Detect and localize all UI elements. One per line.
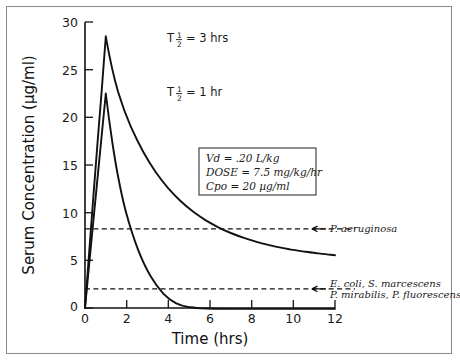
x-ticklabel-6: 6 bbox=[206, 311, 214, 326]
x-ticklabel-10: 10 bbox=[285, 311, 301, 326]
arrow-icon-paeruginosa bbox=[312, 226, 326, 232]
x-ticklabel-0: 0 bbox=[81, 311, 89, 326]
parameter-box: Vd = .20 L/kg DOSE = 7.5 mg/kg/hr Cpo = … bbox=[199, 148, 323, 195]
x-ticklabel-2: 2 bbox=[123, 311, 131, 326]
halflife-3hr-symbol: T bbox=[166, 31, 175, 45]
halflife-3hr-denominator: 2 bbox=[177, 40, 182, 49]
y-ticklabel-25: 25 bbox=[62, 63, 78, 78]
x-ticklabel-12: 12 bbox=[327, 311, 343, 326]
parameter-dose: DOSE = 7.5 mg/kg/hr bbox=[205, 166, 323, 178]
x-ticklabel-8: 8 bbox=[248, 311, 256, 326]
halflife-annotation-1hr: T 1 2 = 1 hr bbox=[166, 85, 223, 103]
x-ticklabel-4: 4 bbox=[164, 311, 172, 326]
reference-line-lower bbox=[85, 286, 355, 292]
x-axis-ticks bbox=[85, 300, 335, 308]
parameter-cpo: Cpo = 20 µg/ml bbox=[206, 180, 290, 192]
y-axis-title: Serum Concentration (µg/ml) bbox=[20, 55, 38, 274]
organism-label-enterics-line2: P. mirabilis, P. fluorescens bbox=[329, 289, 460, 300]
y-ticklabel-15: 15 bbox=[62, 158, 78, 173]
halflife-3hr-text: = 3 hrs bbox=[186, 31, 228, 45]
x-axis-tick-labels: 0 2 4 6 8 10 12 bbox=[81, 311, 343, 326]
y-axis-tick-labels: 30 25 20 15 10 5 0 bbox=[62, 15, 78, 314]
axis-lines bbox=[85, 22, 335, 308]
halflife-annotation-3hr: T 1 2 = 3 hrs bbox=[166, 31, 228, 49]
y-ticklabel-20: 20 bbox=[62, 110, 78, 125]
halflife-1hr-denominator: 2 bbox=[177, 94, 182, 103]
y-ticklabel-5: 5 bbox=[70, 253, 78, 268]
y-ticklabel-10: 10 bbox=[62, 206, 78, 221]
pharmacokinetics-figure: 30 25 20 15 10 5 0 0 2 4 6 8 10 12 bbox=[0, 0, 460, 362]
halflife-1hr-text: = 1 hr bbox=[186, 85, 223, 99]
x-axis-title: Time (hrs) bbox=[171, 330, 249, 348]
organism-label-paeruginosa: P. aeruginosa bbox=[329, 223, 397, 234]
serum-concentration-chart: 30 25 20 15 10 5 0 0 2 4 6 8 10 12 bbox=[0, 0, 460, 362]
y-ticklabel-0: 0 bbox=[70, 299, 78, 314]
arrow-icon-enterics bbox=[312, 286, 326, 292]
parameter-vd: Vd = .20 L/kg bbox=[206, 152, 280, 164]
curve-halflife-1hr bbox=[85, 94, 335, 309]
organism-label-enterics-line1: E. coli, S. marcescens bbox=[329, 278, 441, 289]
y-ticklabel-30: 30 bbox=[62, 15, 78, 30]
halflife-1hr-symbol: T bbox=[166, 85, 175, 99]
